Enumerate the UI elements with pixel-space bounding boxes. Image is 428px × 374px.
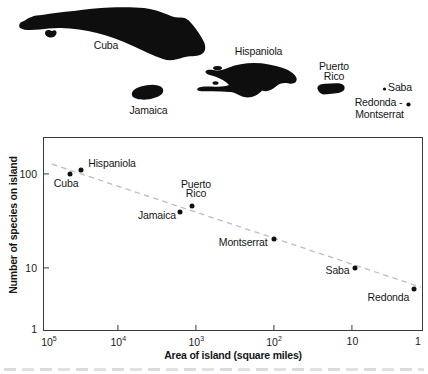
- x-axis-tick: [351, 325, 352, 330]
- y-tick-label: 10: [25, 262, 37, 274]
- y-tick-label: 1: [31, 323, 37, 335]
- redonda-island: [406, 102, 410, 106]
- y-tick-label: 100: [19, 168, 37, 180]
- chart-point-saba: [352, 266, 357, 271]
- chart-point-label-hispaniola: Hispaniola: [88, 159, 136, 169]
- x-axis-tick: [273, 325, 274, 330]
- x-tick-base: 10: [266, 335, 278, 347]
- x-tick-exponent: 2: [278, 335, 282, 342]
- y-axis-tick: [44, 173, 49, 174]
- chart-point-label-saba: Saba: [326, 266, 350, 276]
- x-tick-label: 104: [110, 335, 126, 348]
- x-tick-base: 10: [41, 335, 53, 347]
- hispaniola-island: [197, 63, 296, 97]
- chart-point-hispaniola: [79, 167, 84, 172]
- chart-point-jamaica: [177, 209, 182, 214]
- map-label-puerto-rico: Puerto Rico: [319, 62, 349, 81]
- x-tick-labels: 105104103102101: [0, 335, 428, 349]
- x-tick-label: 105: [41, 335, 57, 348]
- map-label-cuba: Cuba: [94, 41, 119, 51]
- chart-point-label-redonda: Redonda: [368, 293, 410, 303]
- jamaica-island: [132, 85, 163, 100]
- x-tick-label: 102: [266, 335, 282, 348]
- map-label-redonda: Redonda -: [355, 98, 403, 108]
- chart-point-label-puerto-rico: Puerto Rico: [181, 180, 211, 199]
- x-axis-tick: [195, 325, 196, 330]
- y-axis-tick: [44, 267, 49, 268]
- x-tick-label: 10: [347, 335, 359, 347]
- y-axis-title: Number of species on island: [7, 156, 19, 294]
- x-tick-exponent: 3: [200, 335, 204, 342]
- x-tick-base: 1: [415, 335, 421, 347]
- x-axis-title: Area of island (square miles): [43, 349, 423, 361]
- chart-point-montserrat: [272, 236, 277, 241]
- chart-point-redonda: [412, 287, 417, 292]
- chart-point-cuba: [68, 171, 73, 176]
- map-label-hispaniola: Hispaniola: [235, 47, 283, 57]
- x-tick-base: 10: [110, 335, 122, 347]
- figure: CubaHispaniolaJamaicaPuerto RicoSabaRedo…: [0, 0, 428, 374]
- chart-point-label-cuba: Cuba: [54, 179, 79, 189]
- x-tick-base: 10: [347, 335, 359, 347]
- x-tick-exponent: 4: [122, 335, 126, 342]
- x-tick-label: 1: [415, 335, 421, 347]
- chart-point-puerto-rico: [189, 204, 194, 209]
- plot-area: CubaHispaniolaJamaicaPuerto RicoMontserr…: [43, 137, 423, 331]
- gonave-islet: [213, 81, 219, 85]
- trend-line: [52, 164, 421, 287]
- map-label-saba: Saba: [388, 83, 412, 93]
- puerto-rico-island: [317, 83, 344, 94]
- x-axis-tick: [117, 325, 118, 330]
- map-label-montserrat: Montserrat: [355, 110, 404, 120]
- tortuga-islet: [213, 66, 222, 70]
- chart-point-label-jamaica: Jamaica: [138, 212, 176, 222]
- chart-point-label-montserrat: Montserrat: [219, 238, 268, 248]
- x-tick-label: 103: [189, 335, 205, 348]
- saba-island: [383, 87, 386, 90]
- x-tick-exponent: 5: [53, 335, 57, 342]
- cropped-caption-remnant: [4, 368, 424, 371]
- isle-of-youth-island: [45, 30, 57, 37]
- map-label-jamaica: Jamaica: [129, 106, 167, 116]
- x-tick-base: 10: [189, 335, 201, 347]
